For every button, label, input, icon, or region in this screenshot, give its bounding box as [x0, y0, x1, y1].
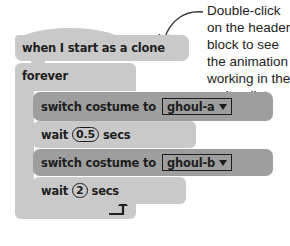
- annotation-line: Double-click: [207, 2, 290, 19]
- switch-costume-label: switch costume to: [41, 100, 156, 114]
- block-notch: [50, 204, 64, 208]
- costume-dropdown-b[interactable]: ghoul-b: [162, 154, 232, 171]
- forever-block-arm: [15, 90, 34, 196]
- forever-block-label: forever: [22, 69, 68, 83]
- wait-block-0-5[interactable]: wait 0.5 secs: [33, 121, 196, 148]
- switch-costume-block-b[interactable]: switch costume to ghoul-b: [33, 149, 273, 176]
- wait-seconds-input[interactable]: 0.5: [72, 127, 99, 142]
- costume-dropdown-value: ghoul-a: [167, 100, 215, 114]
- dropdown-arrow-icon: [219, 104, 227, 110]
- annotation-line: block to see: [207, 36, 290, 53]
- wait-label: wait: [41, 184, 68, 198]
- switch-costume-label: switch costume to: [41, 156, 156, 170]
- hat-block-when-start-as-clone[interactable]: when I start as a clone: [15, 35, 189, 61]
- dropdown-arrow-icon: [219, 160, 227, 166]
- annotation-line: the animation: [207, 53, 290, 70]
- wait-label: wait: [41, 128, 68, 142]
- hat-block-label: when I start as a clone: [22, 41, 165, 55]
- wait-block-2[interactable]: wait 2 secs: [33, 177, 186, 204]
- wait-seconds-input[interactable]: 2: [72, 183, 87, 198]
- wait-seconds-value: 0.5: [76, 128, 95, 141]
- wait-seconds-value: 2: [76, 184, 83, 197]
- annotation-text: Double-click on the header block to see …: [207, 2, 290, 104]
- switch-costume-block-a[interactable]: switch costume to ghoul-a: [33, 92, 273, 121]
- costume-dropdown-a[interactable]: ghoul-a: [162, 98, 232, 115]
- secs-label: secs: [92, 184, 120, 198]
- secs-label: secs: [103, 128, 131, 142]
- annotation-line: on the header: [207, 19, 290, 36]
- costume-dropdown-value: ghoul-b: [167, 156, 215, 170]
- forever-block[interactable]: forever: [15, 63, 136, 91]
- annotation-line: working in the: [207, 70, 290, 87]
